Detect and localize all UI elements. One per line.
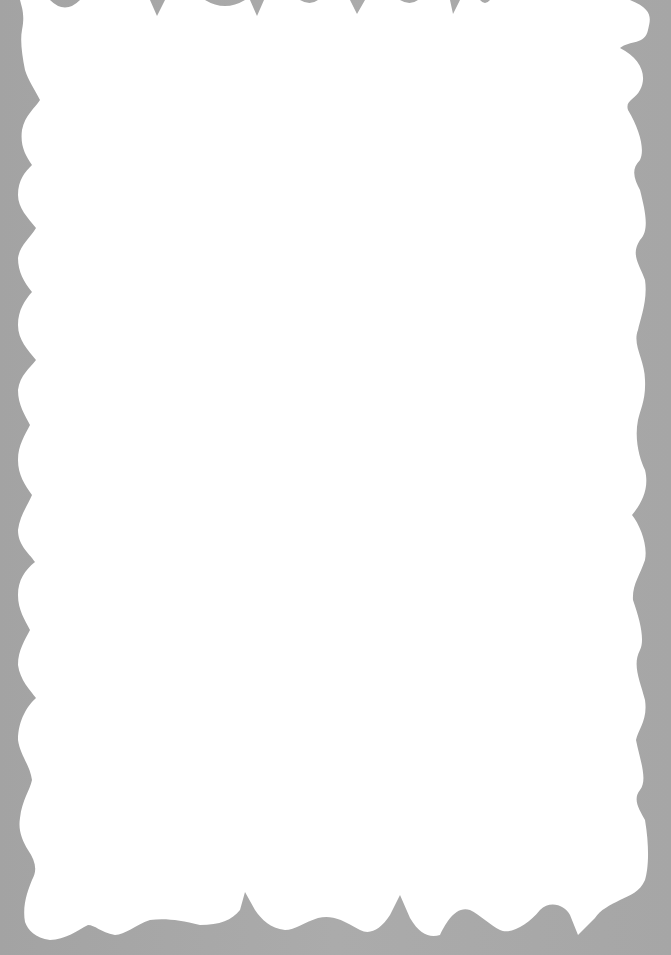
scalloped-paper-card — [0, 0, 671, 955]
background-surface — [0, 0, 671, 955]
card-shape — [18, 0, 650, 940]
